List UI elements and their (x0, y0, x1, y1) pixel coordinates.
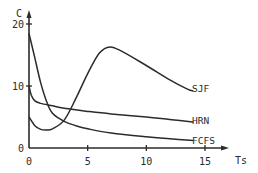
fcfs-label: FCFS (192, 135, 215, 146)
fcfs-curve (29, 33, 193, 140)
sjf-label: SJF (192, 83, 209, 94)
x-axis-title: Ts (235, 155, 247, 166)
y-tick-label: 20 (12, 19, 24, 30)
y-tick-label: 0 (18, 143, 24, 154)
y-axis-title: C (16, 8, 22, 19)
y-axis-arrow-icon (27, 10, 32, 18)
series-lines (29, 33, 193, 140)
x-axis-arrow-icon (221, 146, 229, 151)
x-tick-label: 5 (85, 156, 91, 167)
y-tick-label: 10 (12, 81, 24, 92)
line-chart: 051015 01020 C Ts SJF HRN FCFS (0, 0, 258, 173)
x-tick-label: 15 (199, 156, 211, 167)
series-labels: SJF HRN FCFS (192, 83, 215, 146)
x-tick-label: 10 (140, 156, 152, 167)
x-tick-label: 0 (26, 156, 32, 167)
chart-canvas: 051015 01020 C Ts SJF HRN FCFS (0, 0, 258, 173)
sjf-curve (29, 47, 193, 130)
hrn-label: HRN (192, 115, 209, 126)
hrn-curve (29, 86, 193, 122)
